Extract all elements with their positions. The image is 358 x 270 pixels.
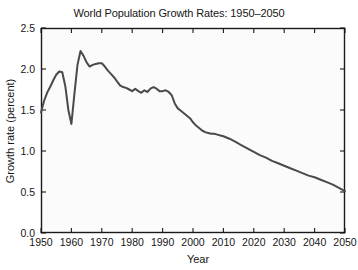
x-tick-label: 2000 [181, 236, 205, 248]
x-tick-label: 1970 [90, 236, 114, 248]
y-tick-label: 0.5 [20, 186, 35, 198]
y-axis-label: Growth rate (percent) [4, 79, 16, 184]
y-tick-label: 2.0 [20, 63, 35, 75]
y-tick-label: 0.0 [20, 227, 35, 239]
x-tick-label: 2040 [303, 236, 327, 248]
x-tick-label: 2030 [273, 236, 297, 248]
y-axis-tick-labels: 0.00.51.01.52.02.5 [20, 22, 35, 239]
x-tick-label: 2010 [212, 236, 236, 248]
x-tick-label: 2020 [242, 236, 266, 248]
y-tick-label: 1.5 [20, 104, 35, 116]
x-tick-label: 2050 [333, 236, 357, 248]
y-tick-label: 2.5 [20, 22, 35, 34]
plot-background [41, 28, 345, 233]
chart-figure: World Population Growth Rates: 1950–2050… [0, 0, 358, 270]
y-tick-label: 1.0 [20, 145, 35, 157]
plot-area-fill [41, 28, 345, 233]
x-tick-label: 1960 [60, 236, 84, 248]
x-axis-label: Year [187, 253, 210, 265]
x-axis-tick-labels: 1950196019701980199020002010202020302040… [29, 236, 357, 248]
x-tick-label: 1990 [151, 236, 175, 248]
line-chart-plot: 1950196019701980199020002010202020302040… [0, 0, 358, 270]
x-tick-label: 1980 [121, 236, 145, 248]
